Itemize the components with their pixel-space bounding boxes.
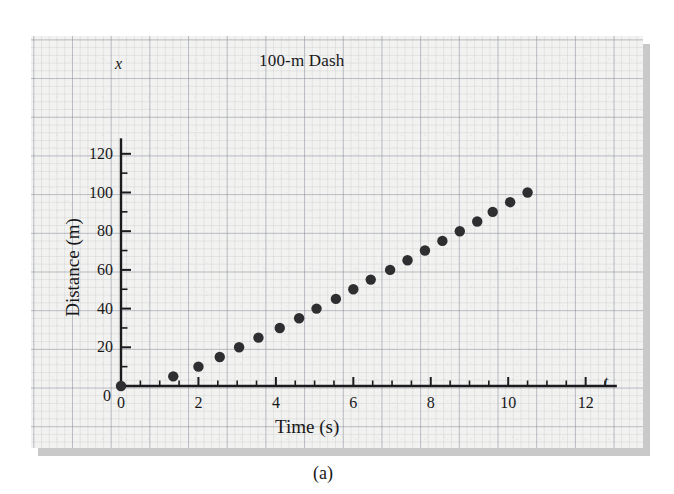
y-axis-symbol-label: x: [115, 56, 122, 72]
y-tick-label: 120: [65, 146, 113, 162]
graph-paper-sheet: [31, 36, 643, 448]
y-tick-label: 100: [65, 185, 113, 201]
y-tick-label: 40: [65, 301, 113, 317]
x-tick-label: 10: [488, 395, 528, 411]
x-axis-title: Time (s): [275, 417, 339, 436]
y-tick-label: 20: [65, 339, 113, 355]
x-tick-label: 8: [411, 395, 451, 411]
x-tick-label: 2: [178, 395, 218, 411]
x-tick-label: 4: [256, 395, 296, 411]
chart-title: 100-m Dash: [259, 52, 345, 69]
x-tick-label: 6: [333, 395, 373, 411]
figure-caption: (a): [313, 464, 333, 482]
x-tick-label: 12: [566, 395, 606, 411]
y-tick-label: 80: [65, 223, 113, 239]
figure-container: 100-m Dash x t Distance (m) Time (s) (a)…: [0, 0, 674, 494]
y-tick-label: 0: [63, 388, 111, 404]
x-axis-symbol-label: t: [604, 374, 608, 389]
y-tick-label: 60: [65, 262, 113, 278]
